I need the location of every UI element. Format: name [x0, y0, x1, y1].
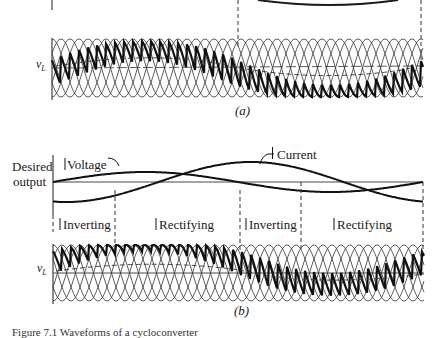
baseline [52, 66, 423, 68]
partial-current-curve [258, 0, 398, 5]
desired-output-label-line1: Desired [12, 160, 52, 173]
panel-a [52, 0, 423, 100]
voltage-label: Voltage [67, 158, 106, 171]
current-label: Current [277, 148, 317, 161]
current-label-bar [272, 147, 273, 159]
region-label-rectifying-1: Rectifying [159, 218, 214, 231]
panel-b-vl-label: vL [37, 262, 47, 277]
region-label-rectifying-2: Rectifying [337, 218, 392, 231]
region-label-inverting-2: Inverting [249, 218, 297, 231]
panel-b-desired-output [53, 154, 423, 250]
region-label-inverting-1: Inverting [63, 218, 111, 231]
panel-a-vl-label: vL [36, 58, 46, 73]
vl-subscript: L [41, 64, 45, 73]
panel-b-vl [53, 244, 424, 304]
figure-caption: Figure 7.1 Waveforms of a cycloconverter [12, 326, 198, 338]
vl-subscript: L [42, 268, 46, 277]
voltage-leader [108, 158, 119, 166]
desired-output-label-line2: output [13, 175, 46, 188]
output-voltage-waveform [52, 41, 423, 97]
panel-b-label: (b) [234, 304, 249, 317]
panel-a-label: (a) [235, 104, 250, 117]
